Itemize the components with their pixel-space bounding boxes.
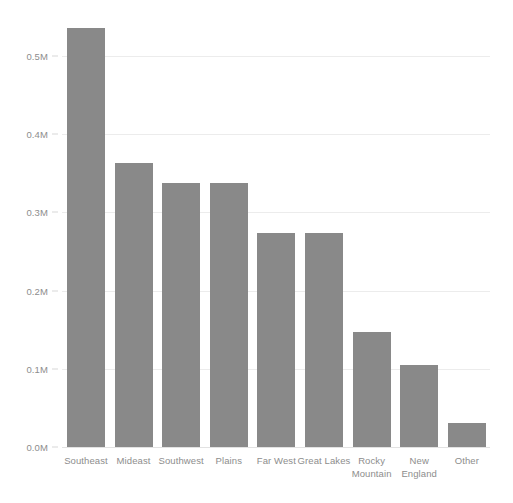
- bar[interactable]: [448, 423, 486, 447]
- bar-series: [62, 0, 490, 503]
- bar[interactable]: [162, 183, 200, 447]
- y-axis-tick-mark: [52, 134, 58, 135]
- bar[interactable]: [210, 183, 248, 447]
- bar[interactable]: [400, 365, 438, 447]
- y-axis-tick-label: 0.5M: [26, 51, 48, 62]
- bar[interactable]: [115, 163, 153, 447]
- y-axis-tick-mark: [52, 212, 58, 213]
- x-axis: SoutheastMideastSouthwestPlainsFar WestG…: [62, 455, 502, 503]
- y-axis-tick-mark: [52, 290, 58, 291]
- y-axis-tick-label: 0.1M: [26, 363, 48, 374]
- y-axis-tick-label: 0.3M: [26, 207, 48, 218]
- y-axis-tick-label: 0.2M: [26, 285, 48, 296]
- y-axis-tick-label: 0.0M: [26, 442, 48, 453]
- x-axis-tick-label-line: Other: [431, 455, 503, 468]
- y-axis-tick-label: 0.4M: [26, 129, 48, 140]
- bar[interactable]: [257, 233, 295, 447]
- x-axis-tick-label-line: England: [383, 468, 455, 481]
- bar[interactable]: [67, 28, 105, 447]
- y-axis: 0.0M0.1M0.2M0.3M0.4M0.5M: [0, 0, 62, 503]
- x-axis-tick-label[interactable]: Other: [431, 455, 503, 468]
- y-axis-tick-mark: [52, 447, 58, 448]
- bar-chart: 0.0M0.1M0.2M0.3M0.4M0.5M SoutheastMideas…: [0, 0, 513, 503]
- y-axis-tick-mark: [52, 368, 58, 369]
- y-axis-tick-mark: [52, 56, 58, 57]
- bar[interactable]: [353, 332, 391, 447]
- bar[interactable]: [305, 233, 343, 447]
